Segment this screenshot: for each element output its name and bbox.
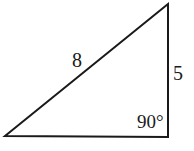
hypotenuse-length-label: 8: [72, 50, 82, 70]
triangle-figure: [0, 0, 194, 151]
vertical-side-length-label: 5: [173, 63, 183, 83]
right-triangle-diagram: 8 5 90°: [0, 0, 194, 151]
right-angle-label: 90°: [137, 112, 164, 131]
